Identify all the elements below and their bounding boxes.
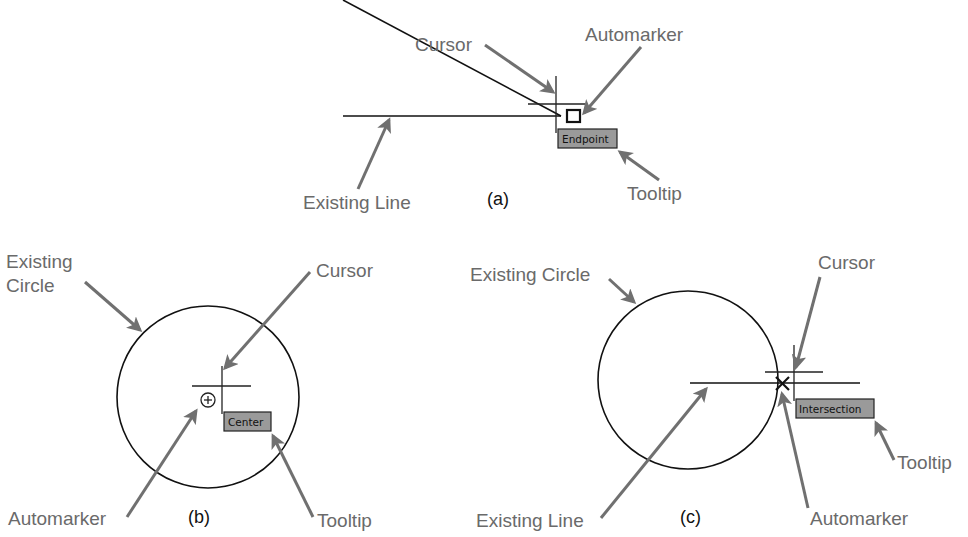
caption-b: (b) bbox=[188, 507, 210, 527]
callout-arrows bbox=[85, 272, 313, 517]
arrow-automarker bbox=[584, 47, 641, 113]
arrow-existing-line bbox=[601, 389, 706, 518]
arrow-existing-line bbox=[358, 120, 389, 189]
arrow-cursor bbox=[796, 277, 820, 367]
label-existing-circle-line2: Circle bbox=[6, 275, 55, 296]
arrow-tooltip bbox=[273, 436, 313, 517]
arrow-existing-circle bbox=[85, 282, 140, 330]
arrow-automarker bbox=[127, 411, 196, 517]
caption-a: (a) bbox=[487, 189, 509, 209]
panel-c: Intersection Existing Circle Cursor Exis… bbox=[470, 252, 952, 531]
cursor-crosshair-icon bbox=[192, 366, 251, 414]
circle-plus-center-marker-icon bbox=[201, 393, 215, 407]
panel-b: Center Existing Circle Cursor Automarker… bbox=[6, 251, 374, 531]
label-tooltip: Tooltip bbox=[897, 452, 952, 473]
label-tooltip: Tooltip bbox=[317, 510, 372, 531]
label-cursor: Cursor bbox=[818, 252, 876, 273]
cursor-crosshair-icon bbox=[528, 76, 585, 133]
caption-c: (c) bbox=[680, 507, 701, 527]
arrow-tooltip bbox=[876, 423, 894, 460]
label-existing-circle: Existing Circle bbox=[470, 264, 590, 285]
label-automarker: Automarker bbox=[585, 24, 684, 45]
label-cursor: Cursor bbox=[415, 34, 473, 55]
existing-circle bbox=[598, 291, 778, 469]
tooltip-text: Intersection bbox=[799, 403, 861, 415]
label-automarker: Automarker bbox=[8, 508, 107, 529]
label-existing-circle-line1: Existing bbox=[6, 251, 73, 272]
arrow-existing-circle bbox=[609, 279, 634, 302]
tooltip-text: Endpoint bbox=[562, 133, 609, 145]
tooltip-intersection: Intersection bbox=[796, 399, 874, 418]
label-cursor: Cursor bbox=[316, 260, 374, 281]
arrow-cursor bbox=[225, 272, 310, 368]
existing-line bbox=[343, 0, 561, 116]
square-endpoint-marker-icon bbox=[567, 110, 580, 122]
label-existing-line: Existing Line bbox=[476, 510, 584, 531]
callout-arrows bbox=[358, 45, 659, 189]
tooltip-text: Center bbox=[228, 416, 264, 428]
label-automarker: Automarker bbox=[810, 508, 909, 529]
tooltip-center: Center bbox=[224, 412, 271, 431]
label-tooltip: Tooltip bbox=[627, 183, 682, 204]
arrow-tooltip bbox=[620, 152, 659, 180]
arrow-cursor bbox=[485, 45, 553, 92]
label-existing-line: Existing Line bbox=[303, 192, 411, 213]
object-snap-diagram: Endpoint Cursor Automarker Existing Line… bbox=[0, 0, 968, 537]
tooltip-endpoint: Endpoint bbox=[558, 129, 617, 148]
panel-a: Endpoint Cursor Automarker Existing Line… bbox=[303, 0, 684, 213]
